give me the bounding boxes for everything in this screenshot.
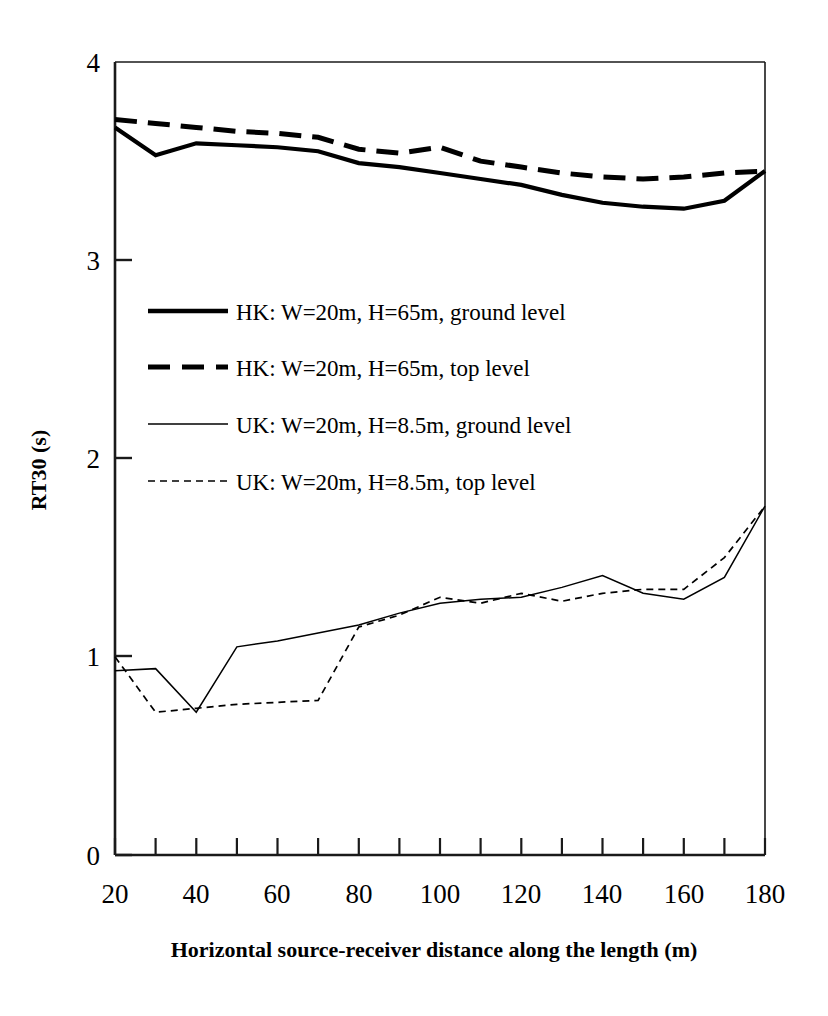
x-tick-label-180: 180 (745, 879, 786, 909)
y-tick-label-1: 1 (87, 642, 101, 672)
x-axis-title: Horizontal source-receiver distance alon… (171, 937, 698, 962)
y-tick-label-3: 3 (87, 246, 101, 276)
x-tick-label-60: 60 (264, 879, 291, 909)
rt30-line-chart: 4 3 2 1 0 RT30 (s) (0, 0, 828, 1016)
x-tick-label-120: 120 (501, 879, 542, 909)
y-tick-label-0: 0 (87, 841, 101, 871)
x-tick-label-140: 140 (582, 879, 623, 909)
y-axis-title: RT30 (s) (26, 430, 51, 511)
y-tick-label-4: 4 (87, 48, 101, 78)
chart-figure: 4 3 2 1 0 RT30 (s) (0, 0, 828, 1016)
x-tick-label-100: 100 (420, 879, 461, 909)
x-tick-label-160: 160 (664, 879, 705, 909)
y-tick-label-2: 2 (87, 444, 101, 474)
legend-label-uk-top: UK: W=20m, H=8.5m, top level (236, 470, 536, 495)
x-tick-label-20: 20 (102, 879, 129, 909)
x-tick-label-80: 80 (346, 879, 373, 909)
x-axis-labels: 20 40 60 80 100 120 140 160 180 (102, 879, 786, 909)
legend-label-hk-top: HK: W=20m, H=65m, top level (236, 356, 530, 381)
legend-label-hk-ground: HK: W=20m, H=65m, ground level (236, 300, 566, 325)
legend-label-uk-ground: UK: W=20m, H=8.5m, ground level (236, 413, 571, 438)
x-tick-label-40: 40 (183, 879, 210, 909)
